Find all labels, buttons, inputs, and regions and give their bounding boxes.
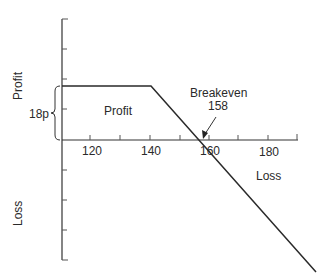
x-tick-180: 180 xyxy=(259,145,279,159)
loss-region-label: Loss xyxy=(256,169,281,183)
x-tick-120: 120 xyxy=(82,144,102,158)
y-label-loss: Loss xyxy=(11,201,25,226)
breakeven-value: 158 xyxy=(208,99,228,113)
bracket-18p xyxy=(51,86,60,140)
payoff-diagram: Profit Loss 18p Profit Loss Breakeven 15… xyxy=(0,0,332,275)
bracket-label: 18p xyxy=(29,107,49,121)
breakeven-arrow xyxy=(205,117,216,134)
breakeven-label: Breakeven xyxy=(190,86,247,100)
y-label-profit: Profit xyxy=(11,71,25,100)
x-tick-160: 160 xyxy=(200,144,220,158)
x-tick-140: 140 xyxy=(141,144,161,158)
profit-region-label: Profit xyxy=(104,104,133,118)
